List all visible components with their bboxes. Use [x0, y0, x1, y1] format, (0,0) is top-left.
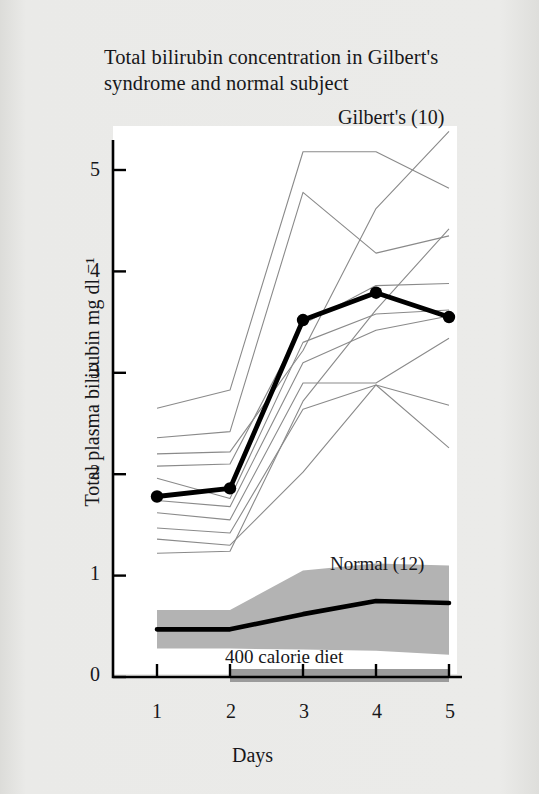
gilberts-individual-line	[157, 310, 449, 499]
diet-period-label: 400 calorie diet	[225, 646, 343, 668]
chart-canvas	[0, 0, 539, 794]
gilberts-mean-marker	[224, 482, 236, 494]
gilberts-mean-marker	[297, 314, 309, 326]
gilberts-individual-line	[157, 284, 449, 467]
gilberts-individual-line	[157, 152, 449, 409]
gilberts-individual-line	[157, 131, 449, 453]
gilberts-individual-line	[157, 316, 449, 507]
gilberts-mean-marker	[151, 490, 163, 502]
normal-range-band-group	[157, 563, 449, 654]
gilberts-individual-line	[157, 385, 449, 533]
diet-bar-group	[230, 669, 449, 682]
normal-range-band	[157, 563, 449, 654]
diet-period-bar	[230, 669, 449, 682]
gilberts-mean-marker	[370, 286, 382, 298]
gilberts-mean-marker	[443, 311, 455, 323]
series-label-normal: Normal (12)	[330, 553, 424, 575]
figure-bilirubin-chart: Total bilirubin concentration in Gilbert…	[0, 0, 539, 794]
